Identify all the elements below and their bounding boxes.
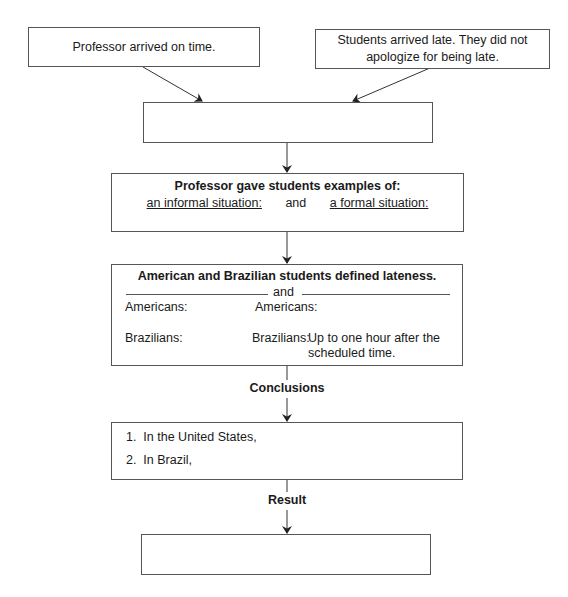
- professor-arrived-text: Professor arrived on time.: [72, 39, 215, 56]
- blank-top-box[interactable]: [143, 102, 433, 143]
- formal-situation-label: a formal situation:: [330, 196, 429, 210]
- students-arrived-line2: apologize for being late.: [366, 49, 499, 66]
- definitions-title: American and Brazilian students defined …: [112, 268, 462, 285]
- definitions-divider-right: [302, 294, 450, 295]
- examples-row: an informal situation: and a formal situ…: [112, 195, 463, 212]
- definitions-divider-and: and: [273, 285, 294, 299]
- students-arrived-box: Students arrived late. They did not apol…: [315, 29, 550, 69]
- conclusion-item-us: 1. In the United States,: [126, 430, 257, 444]
- left-brazilians-label: Brazilians:: [125, 331, 183, 345]
- right-americans-label: Americans:: [255, 300, 318, 314]
- result-box[interactable]: [141, 534, 431, 575]
- professor-arrived-box: Professor arrived on time.: [28, 27, 260, 67]
- examples-box: Professor gave students examples of: an …: [111, 173, 464, 232]
- brazilians-definition-line2: scheduled time.: [308, 346, 396, 360]
- conclusions-label: Conclusions: [247, 381, 326, 395]
- definitions-divider-left: [126, 294, 268, 295]
- students-arrived-line1: Students arrived late. They did not: [337, 32, 527, 49]
- examples-and: and: [285, 196, 306, 210]
- result-label: Result: [266, 493, 308, 507]
- left-americans-label: Americans:: [125, 300, 188, 314]
- right-brazilians-label: Brazilians:: [252, 331, 310, 345]
- brazilians-definition-line1: Up to one hour after the: [308, 331, 440, 345]
- definitions-box: American and Brazilian students defined …: [111, 264, 463, 366]
- conclusions-box: 1. In the United States, 2. In Brazil,: [111, 422, 463, 480]
- examples-title: Professor gave students examples of:: [112, 178, 463, 195]
- conclusion-item-brazil: 2. In Brazil,: [126, 453, 192, 467]
- informal-situation-label: an informal situation:: [147, 196, 262, 210]
